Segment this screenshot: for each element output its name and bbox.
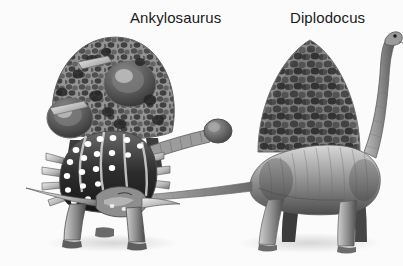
dinosaur-comparison-figure: Ankylosaurus Diplodocus — [0, 0, 403, 266]
label-ankylosaurus: Ankylosaurus — [130, 10, 221, 25]
ankylosaurus-tail-club — [204, 119, 232, 143]
label-diplodocus: Diplodocus — [290, 10, 365, 25]
ankylosaurus-hind-foot — [95, 227, 114, 237]
illustration-canvas — [0, 0, 403, 266]
diplodocus-eye — [393, 34, 397, 38]
